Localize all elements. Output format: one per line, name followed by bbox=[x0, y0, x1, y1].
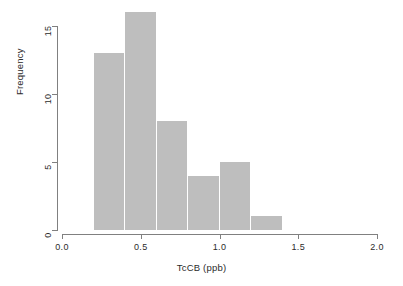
histogram-bar bbox=[220, 162, 251, 230]
x-axis-tick bbox=[141, 234, 142, 239]
x-axis-tick bbox=[377, 234, 378, 239]
y-axis-line bbox=[57, 26, 58, 231]
y-axis-tick-label: 5 bbox=[43, 164, 53, 169]
x-axis-tick-label: 2.0 bbox=[370, 242, 383, 252]
x-axis-tick-label: 0.0 bbox=[55, 242, 68, 252]
x-axis-tick bbox=[220, 234, 221, 239]
x-axis-tick-label: 0.5 bbox=[134, 242, 147, 252]
histogram-bar bbox=[251, 216, 282, 230]
y-axis-tick bbox=[52, 230, 57, 231]
histogram-figure: 0.00.51.01.52.0 051015 TcCB (ppb) Freque… bbox=[0, 0, 403, 286]
y-axis-title: Frequency bbox=[14, 48, 25, 95]
y-axis-tick-label: 10 bbox=[43, 94, 53, 105]
y-axis-tick bbox=[52, 162, 57, 163]
histogram-bar bbox=[157, 121, 188, 230]
y-axis-tick bbox=[52, 94, 57, 95]
x-axis-title: TcCB (ppb) bbox=[0, 262, 403, 273]
x-axis-tick bbox=[62, 234, 63, 239]
y-axis-tick-label: 0 bbox=[43, 232, 53, 237]
y-axis-tick bbox=[52, 26, 57, 27]
plot-area: 0.00.51.01.52.0 051015 TcCB (ppb) Freque… bbox=[0, 0, 403, 286]
y-axis-tick-label: 15 bbox=[43, 26, 53, 37]
x-axis-tick bbox=[298, 234, 299, 239]
histogram-bar bbox=[94, 53, 125, 230]
histogram-bar bbox=[125, 12, 156, 230]
x-axis-tick-label: 1.0 bbox=[213, 242, 226, 252]
x-axis-tick-label: 1.5 bbox=[292, 242, 305, 252]
histogram-bar bbox=[188, 176, 219, 230]
